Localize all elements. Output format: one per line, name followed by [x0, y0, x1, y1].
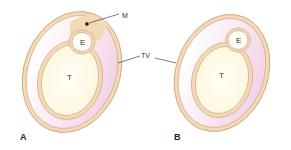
panel-b: E T B — [158, 1, 285, 145]
label-tv: TV — [141, 52, 150, 59]
panel-label-b: B — [174, 132, 181, 142]
panel-a: E T M A — [6, 0, 139, 147]
label-m: M — [122, 12, 128, 19]
label-e-a: E — [80, 38, 85, 47]
mesorchium-dot — [85, 22, 89, 26]
label-e-b: E — [236, 36, 241, 45]
label-t-b: T — [219, 71, 224, 80]
diagram-canvas: E T M A TV E T B — [0, 0, 291, 150]
label-t-a: T — [67, 73, 72, 82]
leader-line-tv-b — [155, 58, 176, 63]
panel-label-a: A — [20, 132, 27, 142]
